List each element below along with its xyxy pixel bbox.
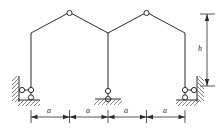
span-label-4: a [163,107,167,115]
support-right-column-roller-icon [182,87,187,92]
support-left [11,74,44,110]
support-left-ground-roller-icon [28,95,33,100]
support-right-wall-roller-icon [191,87,196,92]
frame-diagram: a a a a h [0,0,220,128]
support-right-wall-hatch [197,74,205,110]
span-label-2: a [86,107,90,115]
height-label: h [198,45,202,53]
apex-hinge-right-icon [144,10,149,15]
support-right-ground-roller-icon [182,95,187,100]
support-right [174,74,205,110]
frame-members [31,14,185,88]
support-left-ground-hatch [18,100,44,106]
support-left-wall-hatch [11,74,19,110]
rafter-right-bay-right [149,14,185,33]
height-dimension [200,14,215,86]
rafter-left-bay-right [72,14,108,33]
rafter-left-bay-left [31,14,67,33]
support-left-wall-roller-icon [19,87,24,92]
support-left-column-roller-icon [28,87,33,92]
apex-hinge-left-icon [67,10,72,15]
rafter-right-bay-left [108,14,144,33]
support-middle [94,88,124,105]
span-dimension-chain [31,110,185,123]
support-right-ground-hatch [174,100,200,106]
span-label-1: a [47,107,51,115]
span-label-3: a [124,107,128,115]
diagram-canvas [0,0,220,128]
support-middle-upper-roller-icon [105,88,110,93]
